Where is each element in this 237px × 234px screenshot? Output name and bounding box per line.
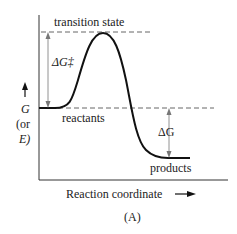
arrow-up-icon [22,82,28,90]
arrow-head-down-icon [46,101,51,108]
y-axis-alt-label: (or [16,118,30,130]
arrow-head-down-icon [167,151,172,158]
arrow-right-icon [187,191,196,197]
x-axis-label: Reaction coordinate [66,188,162,200]
reactants-label: reactants [62,112,105,124]
products-label: products [150,162,191,174]
y-axis-alt-var: E) [19,133,30,145]
arrow-head-up-icon [167,108,172,115]
y-axis-label: G [21,103,30,115]
reaction-curve [39,33,190,158]
activation-energy-label: ΔG‡ [52,56,74,68]
delta-g-label: ΔG [158,126,174,138]
transition-state-label: transition state [54,16,124,28]
figure-caption: (A) [124,211,141,223]
arrow-head-up-icon [46,32,51,39]
